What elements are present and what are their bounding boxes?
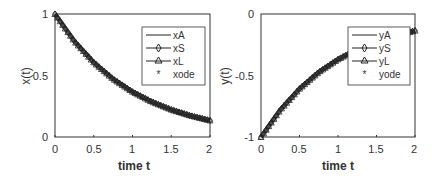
left-legend: xA xS xL * xode bbox=[142, 27, 205, 85]
asterisk-marker-icon: * bbox=[363, 69, 367, 80]
right-legend: yA yS yL * yode bbox=[348, 27, 410, 85]
right-legend-yode: yode bbox=[379, 69, 401, 80]
right-legend-yL: yL bbox=[379, 56, 390, 67]
right-ytick-0: 0 bbox=[248, 8, 254, 20]
left-ytick-1: 1 bbox=[42, 8, 48, 20]
left-legend-xA: xA bbox=[173, 30, 185, 41]
left-xlabel: time t bbox=[118, 159, 150, 173]
left-ylabel: x(t) bbox=[19, 67, 33, 84]
left-plot: 1 0.5 0 0 0.5 1 1.5 2 time t x(t) xA xS … bbox=[19, 8, 213, 173]
right-xtick-2: 2 bbox=[411, 143, 417, 155]
right-ytick--0.5: -0.5 bbox=[235, 70, 254, 82]
right-xlabel: time t bbox=[322, 159, 354, 173]
left-xtick-1: 1 bbox=[129, 143, 135, 155]
left-legend-xL: xL bbox=[173, 56, 184, 67]
figure: 1 0.5 0 0 0.5 1 1.5 2 time t x(t) xA xS … bbox=[0, 0, 441, 186]
right-plot: 0 -0.5 -1 0 0.5 1 1.5 2 time t y(t) yA y… bbox=[218, 8, 418, 173]
left-xtick-1.5: 1.5 bbox=[163, 143, 178, 155]
left-xtick-2: 2 bbox=[206, 143, 212, 155]
right-xtick-1.5: 1.5 bbox=[368, 143, 383, 155]
left-ytick-0: 0 bbox=[42, 131, 48, 143]
right-legend-yS: yS bbox=[379, 43, 391, 54]
right-xtick-0: 0 bbox=[258, 143, 264, 155]
left-ytick-0.5: 0.5 bbox=[33, 70, 48, 82]
right-xtick-0.5: 0.5 bbox=[291, 143, 306, 155]
right-ylabel: y(t) bbox=[218, 67, 232, 84]
asterisk-marker-icon: * bbox=[157, 69, 161, 80]
left-xtick-0: 0 bbox=[52, 143, 58, 155]
right-legend-yA: yA bbox=[379, 30, 391, 41]
right-ytick--1: -1 bbox=[244, 131, 254, 143]
left-xtick-0.5: 0.5 bbox=[86, 143, 101, 155]
left-legend-xode: xode bbox=[173, 69, 195, 80]
right-xtick-1: 1 bbox=[335, 143, 341, 155]
left-legend-xS: xS bbox=[173, 43, 185, 54]
